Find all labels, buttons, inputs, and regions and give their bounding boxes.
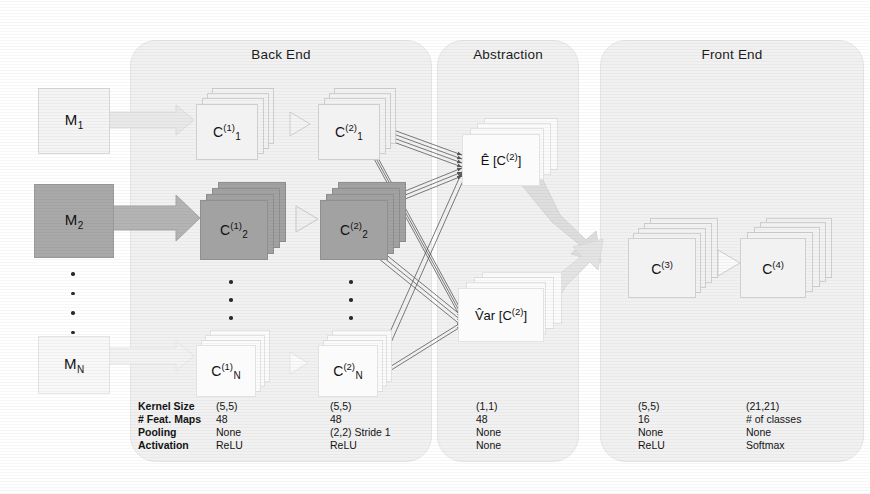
abstraction-node-variance-label: V̂ar [C(2)] xyxy=(458,288,544,342)
table-cell: (5,5) xyxy=(638,400,660,413)
panel-abstraction: Abstraction xyxy=(437,40,579,462)
conv-block-cn-1-label: C(1)N xyxy=(196,345,256,397)
ellipsis-dot xyxy=(229,316,233,320)
table-cell: (1,1) xyxy=(476,400,498,413)
diagram-canvas: Back End Abstraction Front End xyxy=(0,0,870,494)
table-cell: 48 xyxy=(476,413,488,426)
table-cell: (21,21) xyxy=(746,400,779,413)
input-block-m1[interactable]: M1 xyxy=(38,88,110,154)
panel-title-front-end: Front End xyxy=(601,47,863,62)
table-cell: None xyxy=(746,426,771,439)
conv-block-cn-1[interactable]: C(1)N xyxy=(196,330,282,400)
input-block-m1-label: M1 xyxy=(65,111,84,131)
table-cell: 48 xyxy=(330,413,342,426)
table-cell: (5,5) xyxy=(330,400,352,413)
table-row-label: # Feat. Maps xyxy=(138,413,201,426)
input-block-m2-label: M2 xyxy=(65,211,84,231)
ellipsis-dot xyxy=(349,298,353,302)
conv-block-c3-label: C(3) xyxy=(628,238,696,298)
ellipsis-dot xyxy=(71,272,75,276)
conv-block-c2-1-label: C(1)2 xyxy=(200,200,268,260)
ellipsis-dot xyxy=(229,280,233,284)
input-block-m2[interactable]: M2 xyxy=(34,184,114,258)
table-cell: ReLU xyxy=(638,439,665,452)
ellipsis-dot xyxy=(229,298,233,302)
table-row-label: Activation xyxy=(138,439,189,452)
conv-block-c4-label: C(4) xyxy=(740,238,806,298)
conv-block-c2-1[interactable]: C(1)2 xyxy=(200,182,292,262)
ellipsis-dot xyxy=(71,292,75,296)
ellipsis-dot xyxy=(349,280,353,284)
ellipsis-dot xyxy=(71,311,75,315)
conv-block-c2-2[interactable]: C(2)2 xyxy=(320,182,412,262)
table-cell: None xyxy=(476,439,501,452)
input-block-mn-label: MN xyxy=(64,355,84,375)
input-block-mn[interactable]: MN xyxy=(38,336,110,394)
conv-block-c1-2[interactable]: C(2)1 xyxy=(318,88,404,162)
conv-block-c3[interactable]: C(3) xyxy=(628,218,726,300)
table-row-label: Pooling xyxy=(138,426,177,439)
conv-block-c1-1[interactable]: C(1)1 xyxy=(196,88,282,162)
ellipsis-dot xyxy=(71,331,75,335)
table-cell: (2,2) Stride 1 xyxy=(330,426,391,439)
ellipsis-dot xyxy=(349,316,353,320)
conv-block-c1-2-label: C(2)1 xyxy=(318,104,380,160)
table-cell: None xyxy=(216,426,241,439)
input-ellipsis xyxy=(66,272,80,334)
conv-block-c2-2-label: C(2)2 xyxy=(320,200,388,260)
parameter-table: Kernel Size (5,5) (5,5) (1,1) (5,5) (21,… xyxy=(0,400,870,458)
table-cell: ReLU xyxy=(330,439,357,452)
abstraction-node-variance[interactable]: V̂ar [C(2)] xyxy=(458,272,570,346)
panel-title-abstraction: Abstraction xyxy=(438,47,578,62)
conv-block-cn-2[interactable]: C(2)N xyxy=(318,330,404,400)
table-cell: Softmax xyxy=(746,439,785,452)
table-cell: 48 xyxy=(216,413,228,426)
conv-block-c4[interactable]: C(4) xyxy=(740,218,844,300)
table-cell: ReLU xyxy=(216,439,243,452)
table-row-label: Kernel Size xyxy=(138,400,195,413)
table-cell: None xyxy=(476,426,501,439)
table-cell: 16 xyxy=(638,413,650,426)
panel-title-back-end: Back End xyxy=(131,47,431,62)
table-cell: (5,5) xyxy=(216,400,238,413)
table-cell: None xyxy=(638,426,663,439)
abstraction-node-expectation-label: Ê [C(2)] xyxy=(462,134,540,186)
conv-block-cn-2-label: C(2)N xyxy=(318,345,378,397)
conv-block-c1-1-label: C(1)1 xyxy=(196,104,258,160)
table-cell: # of classes xyxy=(746,413,801,426)
abstraction-node-expectation[interactable]: Ê [C(2)] xyxy=(462,118,566,190)
